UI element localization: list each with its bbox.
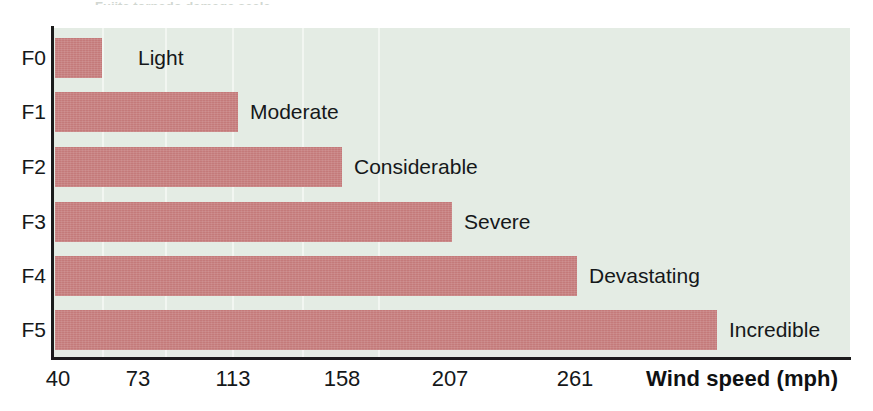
category-label-f2: F2	[8, 155, 46, 179]
category-label-f3: F3	[8, 210, 46, 234]
title-remnant: Fujita tornado damage scale	[95, 0, 565, 5]
bar-row: Considerable	[55, 147, 873, 187]
bar-f4	[55, 256, 577, 296]
bar-f2	[55, 147, 342, 187]
category-label-f0: F0	[8, 46, 46, 70]
category-label-f4: F4	[8, 264, 46, 288]
y-axis-line	[51, 26, 54, 360]
bar-row: Severe	[55, 202, 873, 242]
bar-f1	[55, 92, 238, 132]
x-axis-title: Wind speed (mph)	[646, 366, 838, 392]
x-axis-line	[52, 357, 851, 360]
bar-row: Moderate	[55, 92, 873, 132]
bar-f0	[55, 38, 102, 78]
fujita-scale-bar-chart: Fujita tornado damage scale LightModerat…	[0, 0, 873, 411]
bar-row: Devastating	[55, 256, 873, 296]
x-tick-label-73: 73	[126, 366, 150, 392]
category-label-f5: F5	[8, 318, 46, 342]
bar-label-f1: Moderate	[250, 100, 339, 124]
bar-row: Light	[55, 38, 873, 78]
x-tick-label-261: 261	[557, 366, 594, 392]
bar-label-f0: Light	[138, 46, 184, 70]
bar-label-f2: Considerable	[354, 155, 478, 179]
x-tick-label-113: 113	[215, 366, 250, 392]
bar-label-f3: Severe	[464, 210, 531, 234]
bar-label-f4: Devastating	[589, 264, 700, 288]
x-tick-label-158: 158	[324, 366, 361, 392]
x-tick-label-40: 40	[46, 366, 70, 392]
x-tick-label-207: 207	[432, 366, 469, 392]
bar-f5	[55, 310, 717, 350]
bar-row: Incredible	[55, 310, 873, 350]
bar-label-f5: Incredible	[729, 318, 820, 342]
bar-f3	[55, 202, 452, 242]
category-label-f1: F1	[8, 100, 46, 124]
